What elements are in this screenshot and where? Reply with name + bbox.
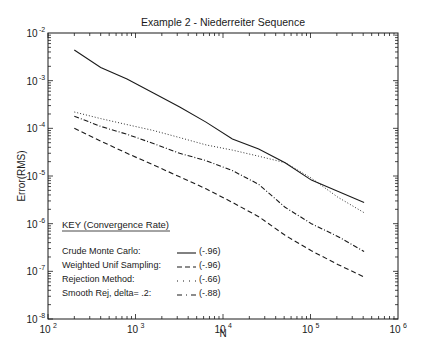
y-tick-exponent: -8 bbox=[39, 312, 45, 319]
x-tick-exponent: 5 bbox=[316, 322, 320, 329]
x-tick-label: 10 bbox=[127, 324, 139, 335]
legend-rate: (-.88) bbox=[199, 288, 221, 298]
y-tick-label: 10 bbox=[26, 123, 38, 134]
y-tick-label: 10 bbox=[26, 171, 38, 182]
y-axis-label: Error(RMS) bbox=[16, 150, 27, 201]
y-tick-exponent: -6 bbox=[39, 217, 45, 224]
x-tick-exponent: 2 bbox=[53, 322, 57, 329]
y-tick-exponent: -2 bbox=[39, 26, 45, 33]
x-axis-label: N bbox=[219, 328, 226, 339]
x-tick-exponent: 3 bbox=[141, 322, 145, 329]
x-tick-exponent: 6 bbox=[403, 322, 407, 329]
y-tick-exponent: -5 bbox=[39, 169, 45, 176]
y-tick-label: 10 bbox=[26, 219, 38, 230]
series-crude-monte-carlo bbox=[74, 50, 364, 202]
legend: KEY (Convergence Rate) Crude Monte Carlo… bbox=[62, 219, 221, 298]
data-series bbox=[74, 50, 364, 277]
chart: Example 2 - Niederreiter Sequence 102103… bbox=[0, 0, 424, 355]
y-tick-label: 10 bbox=[26, 28, 38, 39]
y-tick-exponent: -3 bbox=[39, 74, 45, 81]
x-tick-label: 10 bbox=[39, 324, 51, 335]
x-tick-exponent: 4 bbox=[228, 322, 232, 329]
legend-title: KEY (Convergence Rate) bbox=[62, 219, 169, 230]
series-rejection-method bbox=[74, 112, 364, 213]
legend-label: Smooth Rej, delta= .2: bbox=[62, 288, 151, 298]
legend-rate: (-.96) bbox=[199, 260, 221, 270]
chart-title: Example 2 - Niederreiter Sequence bbox=[141, 16, 305, 28]
y-tick-label: 10 bbox=[26, 314, 38, 325]
legend-label: Rejection Method: bbox=[62, 274, 135, 284]
y-tick-exponent: -4 bbox=[39, 121, 45, 128]
legend-label: Crude Monte Carlo: bbox=[62, 246, 141, 256]
legend-entries: Crude Monte Carlo:(-.96)Weighted Unif Sa… bbox=[62, 246, 221, 298]
legend-rate: (-.96) bbox=[199, 246, 221, 256]
x-tick-label: 10 bbox=[302, 324, 314, 335]
y-tick-label: 10 bbox=[26, 266, 38, 277]
legend-label: Weighted Unif Sampling: bbox=[62, 260, 161, 270]
y-tick-label: 10 bbox=[26, 76, 38, 87]
legend-rate: (-.66) bbox=[199, 274, 221, 284]
y-tick-exponent: -7 bbox=[39, 264, 45, 271]
x-tick-label: 10 bbox=[389, 324, 401, 335]
